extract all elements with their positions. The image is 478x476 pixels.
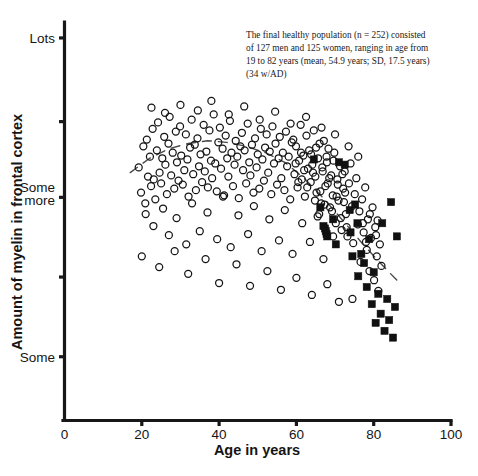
y-tick-label: Lots bbox=[29, 31, 55, 46]
data-point-ad bbox=[379, 220, 386, 227]
data-point-ad bbox=[354, 220, 361, 227]
annotation-line-1: The final healthy population (n = 252) c… bbox=[246, 30, 426, 41]
x-axis-title-group: Age in years bbox=[214, 442, 300, 458]
data-point-ad bbox=[389, 334, 396, 341]
x-tick-label: 0 bbox=[61, 427, 69, 442]
data-point-ad bbox=[330, 216, 337, 223]
data-point-ad bbox=[393, 233, 400, 240]
data-point-ad bbox=[377, 310, 384, 317]
data-point-ad bbox=[349, 253, 356, 260]
x-tick-label: 80 bbox=[366, 427, 381, 442]
data-point-ad bbox=[358, 250, 365, 257]
y-tick-label: Some bbox=[20, 350, 55, 365]
figure-canvas: The final healthy population (n = 252) c… bbox=[0, 0, 478, 476]
annotation-line-4: (34 w/AD) bbox=[246, 69, 287, 80]
plot-background bbox=[0, 0, 478, 476]
data-point-ad bbox=[372, 319, 379, 326]
data-point-ad bbox=[324, 233, 331, 240]
data-point-ad bbox=[355, 273, 362, 280]
data-point-ad bbox=[386, 316, 393, 323]
data-point-ad bbox=[365, 236, 372, 243]
x-tick-label: 40 bbox=[212, 427, 227, 442]
x-tick-label: 100 bbox=[440, 427, 463, 442]
annotation-line-3: 19 to 82 years (mean, 54.9 years; SD, 17… bbox=[246, 56, 430, 67]
y-axis-title: Amount of myelin in frontal cortex bbox=[9, 114, 25, 350]
y-tick-label: more bbox=[24, 193, 55, 208]
data-point-ad bbox=[387, 199, 394, 206]
data-point-ad bbox=[368, 301, 375, 308]
data-point-ad bbox=[363, 283, 370, 290]
data-point-ad bbox=[310, 156, 317, 163]
data-point-ad bbox=[332, 241, 339, 248]
data-point-ad bbox=[391, 303, 398, 310]
x-tick-label: 60 bbox=[289, 427, 304, 442]
y-axis-title-group: Amount of myelin in frontal cortex bbox=[9, 114, 25, 350]
x-axis-title: Age in years bbox=[214, 442, 300, 458]
data-point-ad bbox=[360, 259, 367, 266]
x-tick-label: 20 bbox=[134, 427, 149, 442]
scatter-plot: The final healthy population (n = 252) c… bbox=[0, 0, 478, 476]
data-point-ad bbox=[375, 290, 382, 297]
data-point-ad bbox=[384, 295, 391, 302]
data-point-ad bbox=[381, 327, 388, 334]
data-point-ad bbox=[317, 204, 324, 211]
data-point-ad bbox=[347, 229, 354, 236]
data-point-ad bbox=[370, 269, 377, 276]
data-point-ad bbox=[352, 201, 359, 208]
annotation-line-2: of 127 men and 125 women, ranging in age… bbox=[246, 43, 429, 53]
data-point-ad bbox=[341, 161, 348, 168]
